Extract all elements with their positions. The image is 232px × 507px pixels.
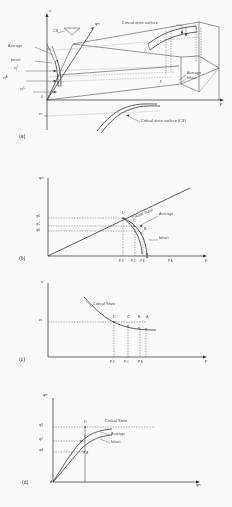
panel-b-xtick-pd: p'D [119, 259, 124, 263]
panel-c-xlabel: p' [205, 359, 208, 363]
panel-c-ylabel: v [41, 280, 43, 284]
panel-d-ytick-qc: qC [39, 438, 43, 442]
panel-d-ytick-qb: qB [39, 449, 43, 453]
panel-c-point-a: A [146, 316, 149, 320]
panel-a-qlabel: qm [95, 22, 100, 27]
panel-d-annotation-intact: Intact [111, 441, 121, 445]
panel-c-xtick-pb: p'B [138, 360, 143, 364]
panel-c-graphic [0, 275, 232, 375]
panel-a-annotation-average: Average [8, 45, 22, 49]
panel-a-xlabel: p' [220, 102, 223, 106]
panel-b-ytick-qb: qB [36, 229, 40, 233]
panel-b-ylabel: qm [39, 176, 44, 181]
panel-b-ytick-qc: qC [36, 223, 40, 227]
panel-a-ylabel: v [49, 9, 51, 13]
panel-a-annotation-cs: CS [53, 30, 58, 34]
panel-c-ytick-vc: vc [39, 319, 42, 323]
panel-b-xlabel: p' [205, 258, 208, 262]
panel-d: qm qm Critical State Average Intact D C … [0, 382, 232, 507]
panel-d-xlabel: qm [196, 483, 201, 488]
panel-d-point-d: D [84, 421, 87, 425]
panel-d-annotation-critical-state: Critical State [105, 420, 127, 424]
panel-a-annotation-intact-right: Intact [187, 77, 197, 81]
panel-d-ytick-qd: qD [39, 424, 43, 428]
panel-a-ytick-vf-c: vfC [20, 88, 25, 92]
panel-c-annotation-critical-state: Critical State [93, 303, 115, 307]
panel-a-graphic [0, 0, 232, 140]
panel-c-point-d: D [113, 316, 116, 320]
panel-d-ylabel: qm [43, 393, 48, 398]
panel-a-tag: (a) [19, 134, 26, 139]
panel-c-xtick-pd: p'D [110, 360, 115, 364]
panel-d-point-c: C [84, 436, 87, 440]
panel-c-xtick-pc: p'C [124, 360, 129, 364]
panel-a-annotation-intact: Intact [11, 59, 21, 63]
panel-a-ytick-vc: vc [39, 113, 42, 117]
panel-b-point-c: C [133, 220, 136, 224]
panel-d-annotation-average: Average [111, 433, 125, 437]
panel-d-tag: (d) [22, 480, 29, 485]
panel-b: qm p' Critical State Average Intact D C … [0, 168, 232, 273]
figure-canvas: v qm p' Critical state surface Critical … [0, 0, 232, 507]
panel-b-xtick-pc: p'C [131, 259, 136, 263]
panel-a-ytick-vf-a: vfA [3, 77, 8, 81]
panel-b-xtick-pb: p'B [140, 259, 145, 263]
panel-a-annotation-critical-state-surface-cs: Critical state surface (CS) [141, 120, 186, 124]
panel-b-annotation-average: Average [159, 213, 173, 217]
panel-b-ytick-qd: qD [36, 215, 40, 219]
panel-b-point-a: A [146, 256, 149, 260]
panel-a-mid-tick: p' [160, 80, 163, 84]
panel-c: v p' Critical State D C B A vc p'D p'C p… [0, 275, 232, 375]
panel-a-annotation-critical-state-surface-top: Critical state surface [122, 22, 158, 26]
panel-c-tag: (c) [19, 357, 25, 362]
panel-c-point-b: B [138, 316, 141, 320]
panel-b-point-b: B [144, 228, 147, 232]
panel-b-point-d: D [122, 212, 125, 216]
panel-a: v qm p' Critical state surface Critical … [0, 0, 232, 140]
panel-b-graphic [0, 168, 232, 273]
panel-a-origin: 0 [41, 96, 43, 100]
panel-c-point-c: C [127, 316, 130, 320]
panel-d-point-b: B [86, 452, 89, 456]
panel-b-annotation-intact: Intact [159, 237, 169, 241]
panel-b-tag: (b) [19, 256, 26, 261]
panel-a-ytick-vf-i: vfI [14, 67, 18, 71]
panel-d-point-a: A [50, 481, 53, 485]
panel-b-xtick-pa: p'A [168, 259, 173, 263]
